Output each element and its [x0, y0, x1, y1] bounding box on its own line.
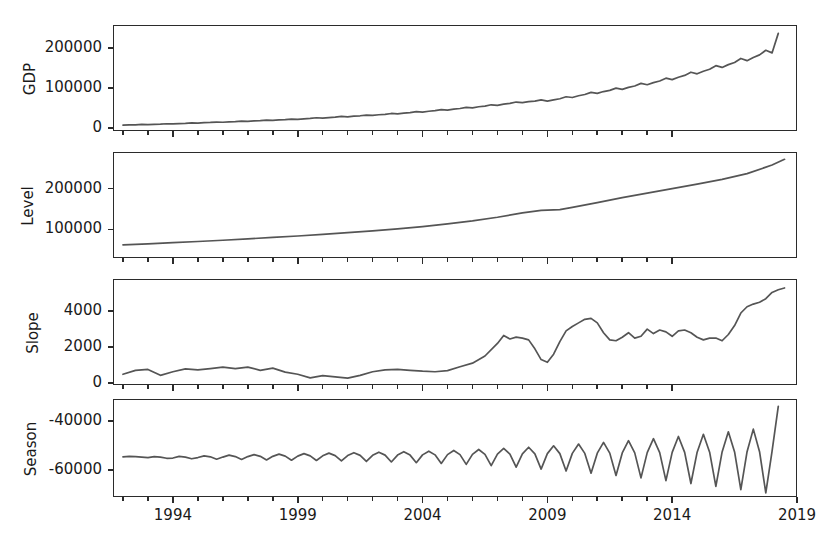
xtick-label-2: 2004: [383, 506, 463, 524]
panel-level-line: [113, 152, 797, 258]
xtick-minor-gdp-2001: [347, 131, 349, 135]
xtick-minor-level-2007: [497, 258, 499, 262]
xtick-minor-gdp-2011: [596, 131, 598, 135]
ytick-gdp-1: [108, 87, 113, 89]
ytick-slope-0: [108, 382, 113, 384]
xtick-minor-season-2001: [347, 497, 349, 501]
panel-slope-line: [113, 279, 797, 385]
xtick-minor-gdp-1994: [172, 131, 174, 137]
ytick-label-slope-2: 4000: [0, 301, 102, 319]
ytick-label-gdp-0: 0: [0, 118, 102, 136]
xtick-minor-level-1994: [172, 258, 174, 264]
xtick-minor-level-1997: [247, 258, 249, 262]
xtick-minor-gdp-2002: [372, 131, 374, 135]
xtick-minor-season-2011: [596, 497, 598, 501]
xtick-minor-slope-1993: [147, 385, 149, 389]
xtick-minor-gdp-2006: [472, 131, 474, 135]
xtick-minor-level-1992: [122, 258, 124, 262]
ytick-label-level-0: 100000: [0, 219, 102, 237]
xtick-minor-season-2003: [397, 497, 399, 501]
xtick-minor-season-1992: [122, 497, 124, 501]
xtick-minor-gdp-2010: [572, 131, 574, 135]
ytick-label-season-1: -40000: [0, 411, 102, 429]
xtick-minor-gdp-1993: [147, 131, 149, 135]
xtick-minor-slope-2001: [347, 385, 349, 389]
xtick-minor-slope-2012: [621, 385, 623, 389]
ytick-season-0: [108, 469, 113, 471]
panel-gdp: [113, 25, 797, 131]
xtick-minor-level-1995: [197, 258, 199, 262]
xtick-major-1: [297, 497, 299, 503]
xtick-minor-season-2012: [621, 497, 623, 501]
xtick-major-3: [547, 497, 549, 503]
panel-slope: [113, 279, 797, 385]
xtick-minor-season-2007: [497, 497, 499, 501]
ytick-level-0: [108, 229, 113, 231]
xtick-minor-season-1996: [222, 497, 224, 501]
xtick-minor-level-2006: [472, 258, 474, 262]
xtick-minor-slope-1995: [197, 385, 199, 389]
xtick-minor-level-2012: [621, 258, 623, 262]
xtick-major-5: [796, 497, 798, 503]
ytick-season-1: [108, 420, 113, 422]
xtick-minor-slope-1994: [172, 385, 174, 391]
xtick-minor-gdp-1992: [122, 131, 124, 135]
xtick-minor-slope-1998: [272, 385, 274, 389]
xtick-minor-level-2002: [372, 258, 374, 262]
xtick-minor-season-2000: [322, 497, 324, 501]
xtick-label-1: 1999: [258, 506, 338, 524]
panel-gdp-line: [113, 25, 797, 131]
xtick-minor-slope-2010: [572, 385, 574, 389]
xtick-minor-gdp-1995: [197, 131, 199, 135]
xtick-minor-slope-1992: [122, 385, 124, 389]
xtick-minor-slope-2002: [372, 385, 374, 389]
xtick-minor-level-1993: [147, 258, 149, 262]
panel-season: [113, 399, 797, 497]
xtick-minor-season-1995: [197, 497, 199, 501]
panel-season-line: [113, 399, 797, 497]
xtick-minor-level-1999: [297, 258, 299, 264]
xtick-minor-slope-2014: [671, 385, 673, 391]
xtick-minor-level-1996: [222, 258, 224, 262]
xtick-minor-season-2008: [522, 497, 524, 501]
xtick-minor-slope-1997: [247, 385, 249, 389]
xtick-minor-slope-2006: [472, 385, 474, 389]
xtick-minor-slope-2003: [397, 385, 399, 389]
ytick-label-slope-0: 0: [0, 373, 102, 391]
xtick-minor-season-1997: [247, 497, 249, 501]
xtick-minor-gdp-1998: [272, 131, 274, 135]
panel-level: [113, 152, 797, 258]
xtick-minor-gdp-2008: [522, 131, 524, 135]
xtick-minor-gdp-2004: [422, 131, 424, 137]
xtick-minor-slope-2009: [547, 385, 549, 391]
xtick-minor-slope-1996: [222, 385, 224, 389]
xtick-minor-level-2008: [522, 258, 524, 262]
ytick-slope-1: [108, 346, 113, 348]
xtick-minor-level-2001: [347, 258, 349, 262]
xtick-major-2: [422, 497, 424, 503]
xtick-label-4: 2014: [632, 506, 712, 524]
ytick-gdp-0: [108, 127, 113, 129]
xtick-minor-slope-2005: [447, 385, 449, 389]
xtick-minor-gdp-1997: [247, 131, 249, 135]
xtick-minor-gdp-1999: [297, 131, 299, 137]
xtick-minor-slope-2008: [522, 385, 524, 389]
xtick-minor-slope-2004: [422, 385, 424, 391]
xtick-major-4: [671, 497, 673, 503]
xtick-minor-gdp-2014: [671, 131, 673, 137]
xtick-minor-level-2003: [397, 258, 399, 262]
xtick-minor-level-2014: [671, 258, 673, 264]
xtick-minor-gdp-1996: [222, 131, 224, 135]
xtick-minor-level-2004: [422, 258, 424, 264]
xtick-minor-season-1998: [272, 497, 274, 501]
xtick-minor-gdp-2000: [322, 131, 324, 135]
xtick-minor-gdp-2003: [397, 131, 399, 135]
xtick-minor-gdp-2007: [497, 131, 499, 135]
ytick-label-slope-1: 2000: [0, 337, 102, 355]
figure-timeseries-decomposition: GDP Level Slope Season 01000002000001000…: [0, 0, 836, 546]
xtick-minor-gdp-2012: [621, 131, 623, 135]
xtick-minor-season-2013: [646, 497, 648, 501]
xtick-minor-level-1998: [272, 258, 274, 262]
xtick-minor-season-1993: [147, 497, 149, 501]
xtick-minor-level-2010: [572, 258, 574, 262]
